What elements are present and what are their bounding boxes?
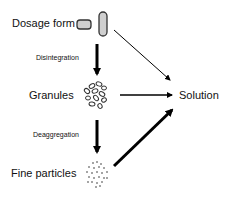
edge-disintegration: Disintegration: [36, 54, 79, 61]
arrow-particles-to-solution: [114, 110, 172, 166]
arrow-dosage-to-solution: [114, 30, 170, 80]
tablet-icon: [77, 12, 107, 36]
node-granules: Granules: [29, 89, 74, 101]
fine-particles-icon: [86, 161, 108, 188]
node-dosage-form: Dosage form: [12, 17, 75, 29]
node-solution: Solution: [179, 89, 219, 101]
edge-deaggregation: Deaggregation: [33, 131, 79, 138]
granules-icon: [83, 81, 107, 109]
node-fine-particles: Fine particles: [11, 167, 76, 179]
